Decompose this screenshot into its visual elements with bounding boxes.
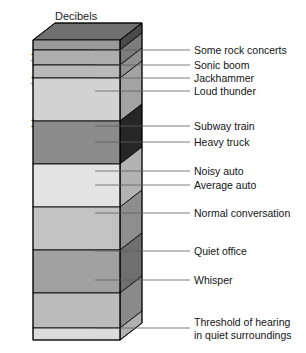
front-face-conversation bbox=[33, 207, 120, 250]
callout-label-some-rock-concerts: Some rock concerts bbox=[194, 44, 287, 56]
callout-label-subway-train: Subway train bbox=[194, 120, 255, 132]
callout-label-loud-thunder: Loud thunder bbox=[194, 85, 256, 97]
callout-labels: Some rock concerts Sonic boom Jackhammer… bbox=[194, 44, 291, 341]
callout-label-average-auto: Average auto bbox=[194, 179, 256, 191]
front-face-whisper bbox=[33, 293, 120, 328]
chart-title: Decibels bbox=[55, 10, 98, 22]
callout-label-whisper: Whisper bbox=[194, 274, 233, 286]
callout-label-heavy-truck: Heavy truck bbox=[194, 136, 250, 148]
front-face-threshold bbox=[33, 328, 120, 340]
front-face-rock-concerts bbox=[33, 50, 120, 65]
callout-label-jackhammer: Jackhammer bbox=[194, 72, 255, 84]
callout-label-noisy-auto: Noisy auto bbox=[194, 165, 244, 177]
callout-label-threshold-of-hearing: Threshold of hearing bbox=[194, 316, 290, 328]
front-face-top-cap bbox=[33, 40, 120, 50]
bar-side-faces bbox=[120, 23, 142, 340]
callout-label-threshold-of-hearing-line2: in quiet surroundings bbox=[194, 329, 291, 341]
callout-label-normal-conversation: Normal conversation bbox=[194, 207, 290, 219]
front-face-quiet-office bbox=[33, 250, 120, 293]
decibel-chart-figure: Decibels 130 120 100 80 60 40 20 0 bbox=[0, 0, 306, 353]
callout-label-sonic-boom: Sonic boom bbox=[194, 59, 250, 71]
decibel-chart-svg: Decibels 130 120 100 80 60 40 20 0 bbox=[0, 0, 306, 353]
callout-label-quiet-office: Quiet office bbox=[194, 245, 247, 257]
front-face-loud-thunder bbox=[33, 78, 120, 121]
bar-front-faces bbox=[33, 40, 120, 340]
front-face-jackhammer bbox=[33, 65, 120, 78]
front-face-noisy-average bbox=[33, 164, 120, 207]
front-face-subway-heavy bbox=[33, 121, 120, 164]
